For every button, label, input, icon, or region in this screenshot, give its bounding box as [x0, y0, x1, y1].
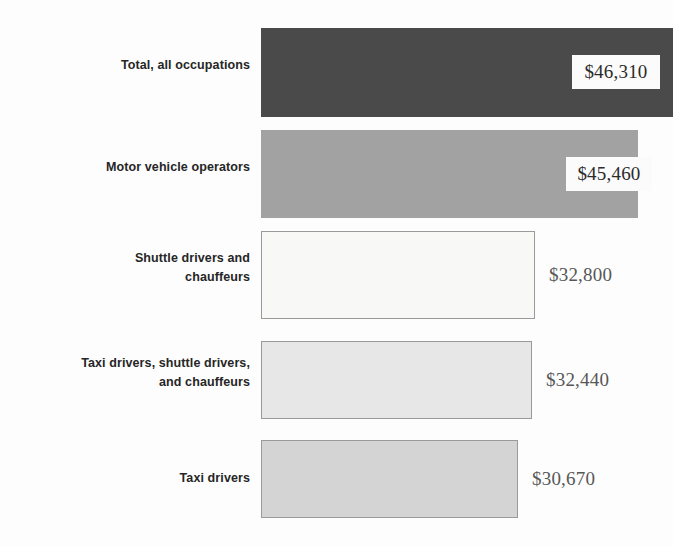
bar-row: Taxi drivers, shuttle drivers, and chauf… [0, 341, 673, 419]
category-label-line2: and chauffeurs [159, 375, 250, 389]
category-label: Total, all occupations [0, 56, 250, 75]
bar-value-label: $32,800 [549, 265, 612, 285]
bar-row: Taxi drivers $30,670 [0, 440, 673, 518]
bar-value-label: $45,460 [566, 157, 652, 191]
bar-taxi-drivers [261, 440, 518, 518]
category-label: Taxi drivers, shuttle drivers, and chauf… [0, 354, 250, 392]
bar-value-label: $30,670 [532, 469, 595, 489]
bar-chart: Total, all occupations $46,310 Motor veh… [0, 0, 673, 546]
bar-row: Shuttle drivers and chauffeurs $32,800 [0, 231, 673, 319]
bar-taxi-shuttle-drivers-and-chauffeurs [261, 341, 532, 419]
bar-value-label: $32,440 [546, 370, 609, 390]
category-label: Motor vehicle operators [0, 158, 250, 177]
category-label-line1: Shuttle drivers and [135, 251, 250, 265]
bar-row: Motor vehicle operators $45,460 [0, 130, 673, 218]
category-label: Shuttle drivers and chauffeurs [0, 249, 250, 287]
category-label-line1: Motor vehicle operators [106, 160, 250, 174]
bar-shuttle-drivers-and-chauffeurs [261, 231, 535, 319]
category-label-line1: Taxi drivers [180, 471, 250, 485]
category-label: Taxi drivers [0, 469, 250, 488]
bar-row: Total, all occupations $46,310 [0, 28, 673, 117]
category-label-line2: chauffeurs [185, 270, 250, 284]
category-label-line1: Taxi drivers, shuttle drivers, [81, 356, 250, 370]
category-label-line1: Total, all occupations [121, 58, 250, 72]
bar-value-label: $46,310 [572, 55, 660, 89]
chart-title [300, 0, 560, 6]
